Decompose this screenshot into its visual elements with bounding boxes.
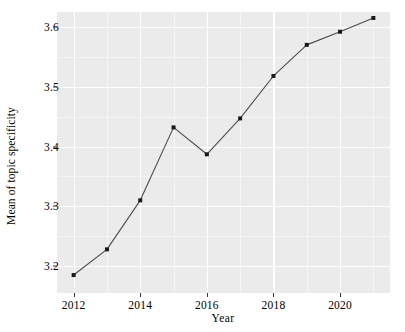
data-point <box>138 198 142 202</box>
data-point <box>172 125 176 129</box>
y-tick-mark <box>53 86 57 87</box>
x-tick-mark <box>273 293 274 297</box>
y-tick-mark <box>53 206 57 207</box>
data-point <box>371 16 375 20</box>
series-layer <box>57 12 390 293</box>
x-tick-label: 2012 <box>51 299 97 311</box>
x-tick-label: 2018 <box>250 299 296 311</box>
x-tick-mark <box>140 293 141 297</box>
x-axis-title: Year <box>56 312 390 324</box>
x-tick-label: 2014 <box>117 299 163 311</box>
x-tick-mark <box>74 293 75 297</box>
plot-panel <box>57 12 390 293</box>
x-tick-mark <box>340 293 341 297</box>
data-point <box>105 247 109 251</box>
x-tick-mark <box>207 293 208 297</box>
data-point <box>305 43 309 47</box>
y-tick-mark <box>53 26 57 27</box>
data-point <box>338 30 342 34</box>
data-point <box>72 273 76 277</box>
line-series-mean-topic-specificity <box>74 18 374 275</box>
data-point <box>238 116 242 120</box>
y-tick-mark <box>53 266 57 267</box>
x-tick-label: 2020 <box>317 299 363 311</box>
data-point <box>271 74 275 78</box>
y-tick-mark <box>53 146 57 147</box>
data-point <box>205 152 209 156</box>
y-axis-title: Mean of topic specificity <box>0 0 22 332</box>
x-tick-label: 2016 <box>184 299 230 311</box>
chart-container: Mean of topic specificity 3.23.33.43.53.… <box>0 0 405 332</box>
data-points <box>72 16 376 277</box>
